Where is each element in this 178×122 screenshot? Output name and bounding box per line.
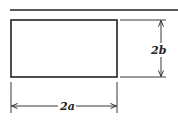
- rectangle-dimension-diagram: 2b 2a: [0, 0, 178, 122]
- height-label: 2b: [150, 44, 167, 57]
- rectangle: [11, 20, 117, 77]
- width-label: 2a: [59, 100, 75, 113]
